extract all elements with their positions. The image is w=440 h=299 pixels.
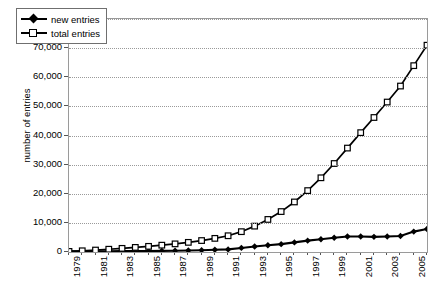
marker-open-square — [305, 188, 311, 194]
marker-filled-diamond — [278, 241, 284, 247]
x-axis-tick-label: 1985 — [152, 256, 162, 277]
x-axis-tick-label: 2001 — [364, 256, 374, 277]
marker-filled-diamond — [304, 237, 310, 243]
marker-open-square — [106, 246, 112, 252]
marker-filled-diamond — [411, 228, 417, 234]
marker-open-square — [252, 223, 258, 229]
marker-open-square — [159, 242, 165, 248]
marker-open-square — [225, 233, 231, 239]
marker-open-square — [384, 99, 390, 105]
legend-label-new-entries: new entries — [51, 14, 100, 25]
x-axis-tick-label: 1995 — [284, 256, 294, 277]
chart-legend: new entries total entries — [16, 8, 107, 44]
x-axis-tick-label: 1999 — [337, 256, 347, 277]
x-axis-tick-label: 1989 — [205, 256, 215, 277]
marker-filled-diamond — [318, 236, 324, 242]
marker-open-square — [345, 145, 351, 151]
gridline — [69, 223, 427, 224]
marker-filled-diamond — [265, 242, 271, 248]
marker-open-square — [212, 236, 218, 242]
marker-filled-diamond — [424, 226, 427, 232]
marker-filled-diamond — [238, 245, 244, 251]
marker-open-square — [398, 83, 404, 89]
marker-open-square — [146, 244, 152, 250]
marker-open-square — [371, 115, 377, 121]
legend-label-total-entries: total entries — [51, 28, 100, 39]
marker-open-square — [199, 238, 205, 244]
marker-filled-diamond — [251, 243, 257, 249]
x-axis-tick-label: 1979 — [72, 256, 82, 277]
x-axis-tick-label: 1993 — [258, 256, 268, 277]
gridline — [69, 136, 427, 137]
gridline — [69, 48, 427, 49]
marker-open-square — [133, 245, 139, 251]
marker-open-square — [292, 199, 298, 205]
line-chart: number of entries 010,00020,00030,00040,… — [0, 0, 440, 299]
marker-filled-diamond — [225, 246, 231, 252]
plot-area — [68, 18, 428, 253]
marker-open-square — [411, 63, 417, 69]
marker-filled-diamond — [358, 233, 364, 239]
marker-open-square — [119, 246, 125, 252]
legend-marker-filled-diamond-icon — [21, 13, 47, 25]
marker-open-square — [69, 249, 72, 252]
marker-open-square — [79, 248, 85, 252]
y-axis-tick-label: 50,000 — [2, 101, 62, 111]
marker-open-square — [186, 240, 192, 246]
x-axis-tick-label: 1983 — [125, 256, 135, 277]
x-axis-tick-label: 2005 — [417, 256, 427, 277]
gridline — [69, 19, 427, 20]
marker-filled-diamond — [172, 247, 178, 252]
marker-open-square — [239, 229, 245, 235]
gridline — [69, 106, 427, 107]
marker-open-square — [265, 217, 271, 223]
y-axis-tick-label: 30,000 — [2, 159, 62, 169]
legend-item-new-entries: new entries — [21, 12, 100, 26]
marker-filled-diamond — [371, 234, 377, 240]
marker-filled-diamond — [384, 233, 390, 239]
marker-open-square — [172, 241, 178, 247]
x-axis-tick-label: 1987 — [178, 256, 188, 277]
marker-filled-diamond — [185, 247, 191, 252]
x-axis-tick-label: 2003 — [390, 256, 400, 277]
plot-inner — [69, 19, 427, 252]
y-axis-tick-label: 60,000 — [2, 72, 62, 82]
y-axis-tick-label: 40,000 — [2, 130, 62, 140]
marker-filled-diamond — [212, 247, 218, 252]
series-total-entries — [69, 42, 427, 252]
marker-filled-diamond — [344, 233, 350, 239]
x-axis-tick-label: 1981 — [99, 256, 109, 277]
gridline — [69, 194, 427, 195]
marker-filled-diamond — [397, 233, 403, 239]
marker-open-square — [278, 209, 284, 215]
gridline — [69, 165, 427, 166]
gridline — [69, 77, 427, 78]
series-line — [69, 45, 427, 251]
marker-open-square — [93, 247, 99, 252]
x-axis-tick-label: 1997 — [311, 256, 321, 277]
legend-item-total-entries: total entries — [21, 26, 100, 40]
marker-open-square — [318, 175, 324, 181]
x-axis-tick-label: 1991 — [231, 256, 241, 277]
legend-marker-open-square-icon — [21, 27, 47, 39]
y-axis-tick-label: 20,000 — [2, 188, 62, 198]
marker-filled-diamond — [331, 235, 337, 241]
y-axis-tick-label: 0 — [2, 246, 62, 256]
y-axis-tick-label: 10,000 — [2, 217, 62, 227]
marker-filled-diamond — [291, 239, 297, 245]
